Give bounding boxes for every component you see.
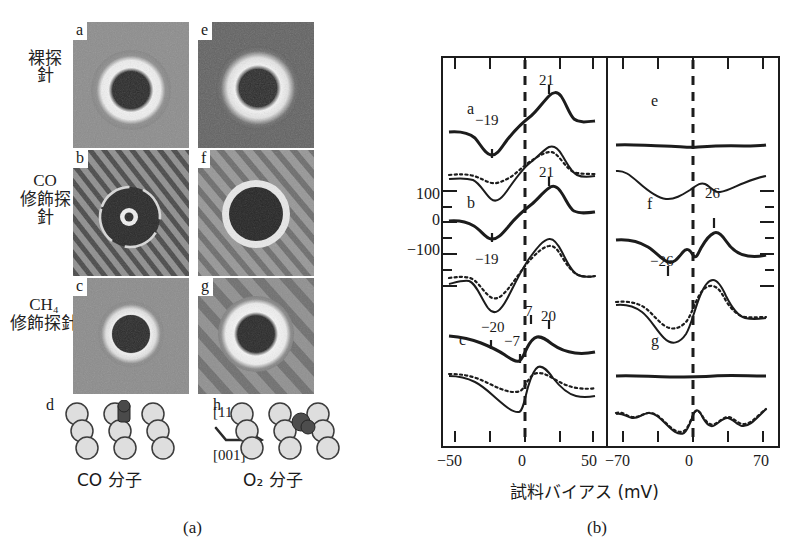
peak-label-c-7: 7 (525, 303, 533, 320)
stm-image-b-tag: b (73, 150, 88, 168)
y-tick-m100: −100 (407, 241, 440, 259)
y-axis-tick-labels: 100 0 −100 (396, 185, 440, 275)
peak-label-a-21: 21 (539, 72, 554, 89)
stm-image-f-render (198, 150, 314, 276)
panel-b-iets-spectra: 100 0 −100 (400, 0, 803, 557)
peak-label-c-20: 20 (541, 308, 556, 325)
row-label-ch4-tip: CH₄ 修飾探針 (10, 296, 78, 333)
stm-image-a-tag: a (73, 22, 87, 40)
row-label-bare-tip: 裸探針 (28, 50, 62, 85)
trace-tag-c: c (459, 331, 466, 349)
stm-image-b: b (73, 150, 189, 276)
row-label-co-tip-line0: CO (14, 172, 76, 189)
stm-image-e: e (198, 22, 314, 148)
molecular-model-d-tag: d (46, 396, 54, 414)
stm-image-c-render (73, 278, 189, 394)
x-tick-left-50: 50 (581, 452, 597, 470)
x-tick-right-0: 0 (685, 452, 693, 470)
y-tick-100: 100 (416, 185, 440, 203)
row-label-ch4-tip-line0: CH₄ (10, 296, 78, 313)
row-label-co-tip-line1: 修飾探針 (14, 191, 76, 226)
stm-image-g: g (198, 278, 314, 394)
stm-image-g-tag: g (198, 278, 213, 296)
peak-label-b-minus19: −19 (475, 251, 498, 268)
molecular-model-d-render (60, 400, 210, 460)
x-axis-tick-labels-left: −50 0 50 (441, 452, 607, 474)
x-tick-left-minus50: −50 (437, 452, 462, 470)
stm-image-c-tag: c (73, 278, 87, 296)
molecular-model-h-render (225, 400, 375, 460)
stm-image-a-render (73, 22, 189, 148)
peak-label-f-minus26: −26 (650, 253, 673, 270)
molecular-model-h (225, 400, 375, 460)
x-tick-right-minus70: −70 (605, 452, 630, 470)
x-tick-left-0: 0 (518, 452, 526, 470)
stm-image-c: c (73, 278, 189, 394)
y-tick-0: 0 (432, 211, 440, 229)
trace-tag-a: a (467, 100, 474, 118)
molecular-model-h-tag: h (213, 396, 221, 414)
panel-a-stm-images: 裸探針 CO 修飾探針 CH₄ 修飾探針 (0, 0, 400, 557)
stm-image-e-render (198, 22, 314, 148)
stm-image-g-render (198, 278, 314, 394)
row-label-co-tip: CO 修飾探針 (14, 172, 76, 226)
plot-right-render (608, 58, 774, 442)
trace-tag-e: e (651, 92, 658, 110)
row-label-ch4-tip-line1: 修飾探針 (10, 315, 78, 332)
molecular-model-h-caption: O₂ 分子 (243, 466, 303, 491)
peak-label-c-minus20: −20 (481, 319, 504, 336)
peak-label-c-minus7: −7 (504, 333, 520, 350)
stm-image-a: a (73, 22, 189, 148)
molecular-model-d (60, 400, 210, 460)
peak-label-a-minus19: −19 (475, 112, 498, 129)
subfigure-caption-b: (b) (587, 518, 607, 538)
x-tick-right-70: 70 (753, 452, 769, 470)
x-axis-title: 試料バイアス (mV) (510, 478, 659, 503)
peak-label-f-26: 26 (705, 185, 720, 202)
trace-tag-f: f (647, 195, 652, 213)
x-axis-tick-labels-right: −70 0 70 (606, 452, 776, 474)
figure-root: 裸探針 CO 修飾探針 CH₄ 修飾探針 (0, 0, 803, 557)
stm-image-b-render (73, 150, 189, 276)
stm-image-e-tag: e (198, 22, 212, 40)
peak-label-b-21: 21 (539, 164, 554, 181)
subfigure-caption-a: (a) (183, 518, 202, 538)
stm-image-f: f (198, 150, 314, 276)
trace-tag-b: b (467, 194, 475, 212)
trace-tag-g: g (651, 332, 659, 350)
stm-image-f-tag: f (198, 150, 210, 168)
plot-right-axes (606, 56, 780, 448)
molecular-model-d-caption: CO 分子 (77, 466, 142, 491)
row-label-bare-tip-line0: 裸探針 (28, 50, 62, 85)
